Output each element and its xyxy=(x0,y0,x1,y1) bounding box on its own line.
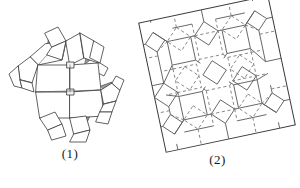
figure-panel-1: (1) xyxy=(0,0,140,188)
figure-caption-2: (2) xyxy=(135,152,300,168)
face-right-top xyxy=(70,63,101,92)
figure-panel-2: (2) xyxy=(135,0,300,188)
figure-board: (1) xyxy=(0,0,300,188)
crease-sheet xyxy=(139,0,296,152)
figure-caption-1: (1) xyxy=(0,146,140,162)
face-left-top xyxy=(36,65,70,92)
folded-model-drawing xyxy=(0,0,140,146)
folded-model-geometry xyxy=(9,27,124,142)
crease-pattern-drawing xyxy=(135,0,300,152)
